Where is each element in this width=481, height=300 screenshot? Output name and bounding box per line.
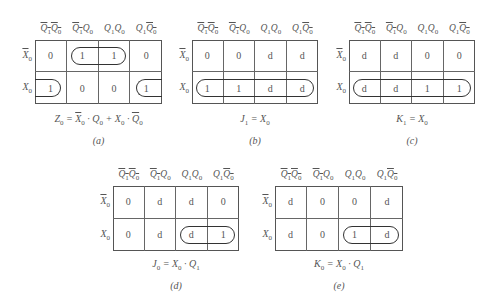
kmap-cell: d <box>275 186 307 219</box>
kmap-equation: J0 = X0 · Q1 <box>93 258 259 272</box>
column-header: Q1Q0 <box>145 169 177 183</box>
kmap-grid: d00dd01d <box>275 186 403 251</box>
kmap-cell: 1 <box>192 72 224 104</box>
kmap-cell: d <box>255 72 287 104</box>
row-header: X0 <box>10 49 32 63</box>
kmap-cell: 1 <box>99 40 131 72</box>
kmap-equation: J1 = X0 <box>172 113 338 127</box>
kmap-caption: (d) <box>113 280 239 291</box>
kmap-cell: 1 <box>130 72 162 104</box>
column-header: Q1Q0 <box>67 23 99 37</box>
kmap-cell: 1 <box>444 72 476 104</box>
column-header: Q1Q0 <box>99 23 131 37</box>
kmap-grid: 00dd11dd <box>192 40 318 104</box>
kmap-cell: 0 <box>224 40 256 72</box>
kmap-cell: d <box>349 72 381 104</box>
column-header: Q1Q0 <box>275 169 307 183</box>
kmap-cell: d <box>176 219 208 252</box>
column-header: Q1Q0 <box>208 169 240 183</box>
kmap-cell: 0 <box>412 40 444 72</box>
kmap-cell: 0 <box>113 219 145 252</box>
row-header: X0 <box>10 81 32 95</box>
kmap-caption: (b) <box>192 135 318 146</box>
kmap-grid: 01101001 <box>35 40 162 104</box>
kmap-cell: 0 <box>130 40 162 72</box>
row-header: X0 <box>250 195 272 209</box>
kmap-caption: (c) <box>349 135 475 146</box>
kmap-cell: 1 <box>35 72 67 104</box>
kmap-cell: d <box>381 72 413 104</box>
kmap-cell: d <box>145 186 177 219</box>
kmap-equation: K0 = X0 · Q1 <box>255 258 423 272</box>
kmap-cell: 0 <box>35 40 67 72</box>
kmap-cell: d <box>381 40 413 72</box>
kmap-cell: d <box>287 72 319 104</box>
kmap-caption: (a) <box>35 135 162 146</box>
kmap-cell: 0 <box>192 40 224 72</box>
column-header: Q1Q0 <box>224 23 256 37</box>
column-header: Q1Q0 <box>412 23 444 37</box>
row-header: X0 <box>324 81 346 95</box>
kmap-cell: 1 <box>412 72 444 104</box>
kmap-cell: d <box>145 219 177 252</box>
kmap-cell: 1 <box>224 72 256 104</box>
kmap-cell: 1 <box>339 219 371 252</box>
column-header: Q1Q0 <box>349 23 381 37</box>
kmap-cell: d <box>287 40 319 72</box>
kmap-grid: 0dd00dd1 <box>113 186 239 251</box>
kmap-cell: d <box>349 40 381 72</box>
kmap-cell: d <box>371 186 403 219</box>
kmap-cell: 0 <box>113 186 145 219</box>
column-header: Q1Q0 <box>307 169 339 183</box>
row-header: X0 <box>250 228 272 242</box>
column-header: Q1Q0 <box>255 23 287 37</box>
column-header: Q1Q0 <box>176 169 208 183</box>
kmap-cell: 1 <box>208 219 240 252</box>
row-header: X0 <box>167 49 189 63</box>
kmap-cell: 0 <box>99 72 131 104</box>
row-header: X0 <box>88 228 110 242</box>
column-header: Q1Q0 <box>113 169 145 183</box>
column-header: Q1Q0 <box>192 23 224 37</box>
row-header: X0 <box>167 81 189 95</box>
column-header: Q1Q0 <box>339 169 371 183</box>
kmap-cell: d <box>176 186 208 219</box>
column-header: Q1Q0 <box>35 23 67 37</box>
column-header: Q1Q0 <box>287 23 319 37</box>
kmap-caption: (e) <box>275 280 403 291</box>
kmap-cell: 0 <box>307 186 339 219</box>
kmap-cell: 1 <box>67 40 99 72</box>
column-header: Q1Q0 <box>371 169 403 183</box>
kmap-grid: dd00dd11 <box>349 40 475 104</box>
column-header: Q1Q0 <box>130 23 162 37</box>
row-header: X0 <box>88 195 110 209</box>
kmap-cell: 0 <box>444 40 476 72</box>
kmap-cell: 0 <box>208 186 240 219</box>
column-header: Q1Q0 <box>381 23 413 37</box>
kmap-equation: Z0 = X0 · Q0 + X0 · Q0 <box>15 113 182 127</box>
kmap-cell: 0 <box>67 72 99 104</box>
row-header: X0 <box>324 49 346 63</box>
kmap-cell: d <box>371 219 403 252</box>
kmap-cell: d <box>275 219 307 252</box>
kmap-equation: K1 = X0 <box>329 113 481 127</box>
column-header: Q1Q0 <box>444 23 476 37</box>
kmap-cell: 0 <box>307 219 339 252</box>
kmap-cell: d <box>255 40 287 72</box>
kmap-cell: 0 <box>339 186 371 219</box>
